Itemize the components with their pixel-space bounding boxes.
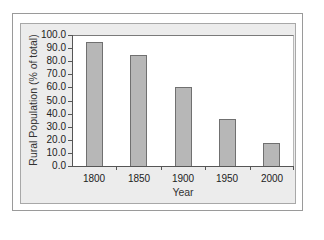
x-axis-line: [72, 166, 294, 167]
x-axis-title: Year: [163, 186, 203, 198]
y-axis-title: Rural Population (% of total): [27, 34, 39, 165]
bar-1850: [130, 55, 147, 166]
x-tick-label: 1800: [74, 173, 114, 184]
x-tick-label: 2000: [252, 173, 292, 184]
x-tick-label: 1900: [163, 173, 203, 184]
bar-1800: [86, 42, 103, 166]
x-tick-label: 1950: [207, 173, 247, 184]
bar-1950: [219, 119, 236, 166]
bar-1900: [175, 87, 192, 166]
bar-2000: [263, 143, 280, 166]
y-axis-line: [72, 35, 73, 167]
x-tick-label: 1850: [119, 173, 159, 184]
